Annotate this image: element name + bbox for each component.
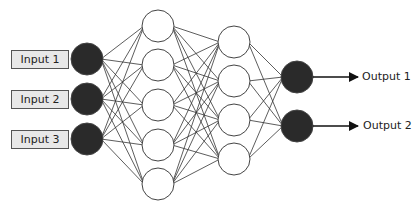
edge xyxy=(101,139,144,145)
edge xyxy=(248,81,283,126)
edge xyxy=(101,26,144,99)
input-node-1 xyxy=(71,43,103,75)
input-node-2 xyxy=(71,83,103,115)
edge xyxy=(248,126,283,159)
hidden-2-node-2 xyxy=(218,65,250,97)
connection-edges xyxy=(101,26,283,184)
edge xyxy=(248,77,283,159)
output-label-2: Output 2 xyxy=(363,119,412,132)
input-box-1: Input 1 xyxy=(11,50,69,69)
input-box-3: Input 3 xyxy=(11,130,69,149)
edge xyxy=(248,77,283,81)
hidden-1-node-1 xyxy=(142,10,174,42)
hidden-1-node-3 xyxy=(142,89,174,121)
neural-network-diagram: Input 1 Input 2 Input 3 Output 1 Output … xyxy=(0,0,415,206)
hidden-1-node-4 xyxy=(142,129,174,161)
output-label-1: Output 1 xyxy=(362,70,411,83)
output-node-2 xyxy=(281,110,313,142)
hidden-2-node-3 xyxy=(218,104,250,136)
edge xyxy=(101,99,144,184)
hidden-1-node-5 xyxy=(142,168,174,200)
edge xyxy=(101,139,144,184)
input-label-3: Input 3 xyxy=(21,133,60,146)
input-label-2: Input 2 xyxy=(21,93,60,106)
output-arrows xyxy=(313,77,358,126)
input-node-3 xyxy=(71,123,103,155)
input-box-2: Input 2 xyxy=(11,90,69,109)
input-label-1: Input 1 xyxy=(21,53,60,66)
edge xyxy=(248,120,283,126)
hidden-2-node-1 xyxy=(218,26,250,58)
edge xyxy=(172,81,220,184)
output-node-1 xyxy=(281,61,313,93)
edge xyxy=(101,65,144,139)
hidden-2-node-4 xyxy=(218,143,250,175)
edge xyxy=(248,42,283,77)
hidden-1-node-2 xyxy=(142,49,174,81)
